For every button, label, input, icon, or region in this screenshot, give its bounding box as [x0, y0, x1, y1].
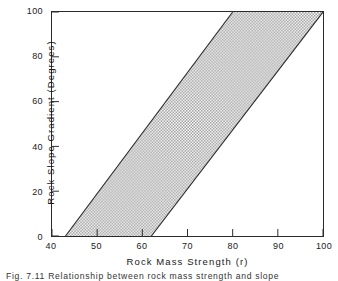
figure-caption: Fig. 7.11 Relationship between rock mass…: [6, 271, 336, 281]
y-tick-label-40: 40: [17, 142, 43, 152]
y-tick-label-60: 60: [17, 96, 43, 106]
x-tick-label-40: 40: [46, 241, 57, 251]
y-tick-label-0: 0: [17, 232, 43, 242]
x-tick-label-50: 50: [91, 241, 102, 251]
x-axis-title: Rock Mass Strength (r): [51, 256, 324, 267]
x-tick-label-70: 70: [182, 241, 193, 251]
y-tick-label-80: 80: [17, 51, 43, 61]
plot-canvas: [52, 12, 323, 236]
x-tick-label-80: 80: [228, 241, 239, 251]
x-tick-label-100: 100: [316, 241, 332, 251]
shaded-band: [66, 12, 323, 236]
y-axis-title: Rock Slope Gradient (Degrees): [45, 10, 56, 236]
y-tick-label-20: 20: [17, 187, 43, 197]
y-tick-label-100: 100: [17, 6, 43, 16]
x-tick-label-90: 90: [273, 241, 284, 251]
plot-frame: [51, 11, 324, 237]
x-tick-label-60: 60: [137, 241, 148, 251]
